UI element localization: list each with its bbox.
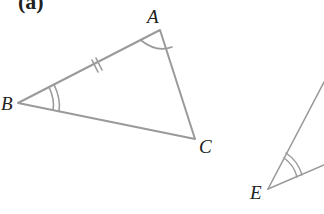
triangle-abc <box>18 30 195 139</box>
part-label: (a) <box>18 0 44 13</box>
vertex-label-c: C <box>199 137 212 156</box>
vertex-label-e: E <box>250 183 262 202</box>
angle-e-double-arc <box>284 153 302 177</box>
vertex-label-a: A <box>147 7 159 26</box>
angle-a-arc <box>141 40 173 49</box>
figure-svg <box>0 0 324 214</box>
angle-e-ray-lower <box>268 165 324 189</box>
vertex-label-b: B <box>1 94 13 113</box>
angle-b-double-arc <box>49 85 59 112</box>
geometry-figure: (a) A B C E <box>0 0 324 214</box>
